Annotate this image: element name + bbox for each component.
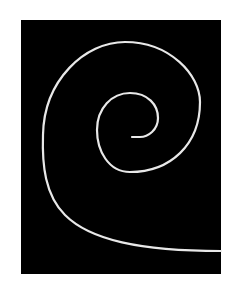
spiral-curve xyxy=(43,42,221,251)
spiral-graphic xyxy=(0,0,232,281)
